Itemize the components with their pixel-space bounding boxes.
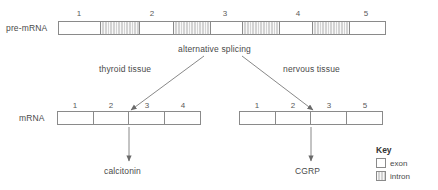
key-row-intron: intron [376,171,432,181]
pre-mrna-exon-segment [59,22,101,34]
thyroid-mrna-exon-number-4: 4 [165,101,201,110]
exon-swatch-icon [376,158,386,168]
mrna-exon-segment [129,112,165,124]
nervous-mrna-exon-number-4: 5 [347,101,383,110]
pre-mrna-exon-number-3: 3 [204,9,246,18]
key-legend: Key exon intron [376,145,432,184]
pre-mrna-exon-segment [211,22,243,34]
key-title: Key [376,145,432,155]
mrna-exon-segment [94,112,130,124]
pre-mrna-sequence-bar [58,21,386,35]
nervous-mrna-sequence-bar [239,111,383,125]
pre-mrna-exon-number-2: 2 [131,9,173,18]
nervous-mrna-exon-number-2: 2 [275,101,311,110]
intron-swatch-icon [376,171,386,181]
key-row-exon: exon [376,158,432,168]
nervous-mrna-exon-number-3: 3 [311,101,347,110]
pre-mrna-intron-segment [174,22,211,34]
pre-mrna-exon-segment [350,22,385,34]
thyroid-tissue-label: thyroid tissue [99,64,151,74]
calcitonin-product-label: calcitonin [104,166,141,176]
alternative-splicing-diagram: pre-mRNA 1 2 3 4 5 alternative splicing … [0,0,438,190]
pre-mrna-intron-segment [243,22,280,34]
nervous-mrna-exon-number-1: 1 [239,101,275,110]
key-label-exon: exon [390,159,407,168]
nervous-tissue-label: nervous tissue [283,64,340,74]
alternative-splicing-label: alternative splicing [178,44,251,54]
pre-mrna-exon-number-5: 5 [345,9,387,18]
pre-mrna-intron-segment [313,22,350,34]
cgrp-product-label: CGRP [295,166,320,176]
mrna-exon-segment [311,112,347,124]
thyroid-mrna-exon-number-3: 3 [129,101,165,110]
pre-mrna-intron-segment [101,22,141,34]
mrna-exon-segment [165,112,201,124]
thyroid-mrna-sequence-bar [57,111,201,125]
thyroid-mrna-exon-number-1: 1 [57,101,93,110]
mrna-exon-segment [240,112,276,124]
mrna-exon-segment [58,112,94,124]
thyroid-mrna-exon-number-2: 2 [93,101,129,110]
key-label-intron: intron [390,172,410,181]
pre-mrna-exon-segment [140,22,174,34]
pre-mrna-exon-number-4: 4 [277,9,319,18]
mrna-exon-segment [276,112,312,124]
mrna-exon-segment [347,112,383,124]
pre-mrna-exon-number-1: 1 [58,9,100,18]
pre-mrna-label: pre-mRNA [6,23,47,33]
pre-mrna-exon-segment [280,22,313,34]
mrna-label: mRNA [19,113,45,123]
